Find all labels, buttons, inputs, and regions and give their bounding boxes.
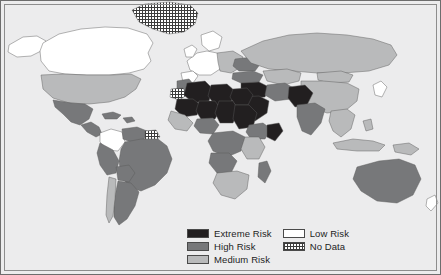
legend-item-extreme-risk: Extreme Risk [187,228,272,239]
legend-column-left: Extreme Risk High Risk Medium Risk [187,228,272,265]
legend-label-low-risk: Low Risk [310,228,349,239]
legend-item-low-risk: Low Risk [283,228,349,239]
legend-column-right: Low Risk No Data [283,228,349,252]
hatch-pattern-icon [283,242,305,251]
color-swatch-icon [283,229,305,238]
legend-item-no-data: No Data [283,241,349,252]
map-legend: Extreme Risk High Risk Medium Risk Low R… [187,228,337,266]
legend-label-high-risk: High Risk [214,241,256,252]
legend-label-extreme-risk: Extreme Risk [214,228,272,239]
world-risk-map [1,1,441,233]
color-swatch-icon [187,229,209,238]
risk-map-figure: Extreme Risk High Risk Medium Risk Low R… [0,0,441,275]
color-swatch-icon [187,242,209,251]
legend-item-medium-risk: Medium Risk [187,254,272,265]
legend-label-medium-risk: Medium Risk [214,254,270,265]
color-swatch-icon [187,255,209,264]
legend-item-high-risk: High Risk [187,241,272,252]
legend-label-no-data: No Data [310,241,346,252]
